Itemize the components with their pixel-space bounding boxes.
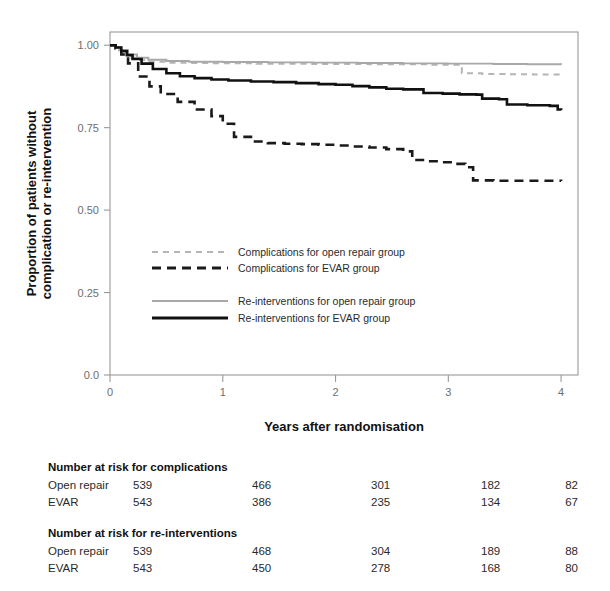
risk-cell: 189 [481,545,500,557]
risk-cell: 88 [565,545,578,557]
risk-cell: 278 [371,562,390,574]
chart-legend: Complications for open repair groupCompl… [152,246,416,324]
risk-cell: 80 [565,562,578,574]
risk-cell: 67 [565,496,578,508]
legend-label-0: Complications for open repair group [238,246,405,258]
risk-cell: 301 [371,479,390,491]
kaplan-meier-figure: 0.00.250.500.751.00 01234 Complications … [0,0,610,591]
x-axis-title: Years after randomisation [264,419,424,434]
risk-cell: 168 [481,562,500,574]
y-tick-label: 0.0 [84,369,99,381]
x-tick-label: 2 [332,386,338,398]
risk-table-header-0: Number at risk for complications [48,461,228,473]
risk-row-label: Open repair [48,545,109,557]
y-tick-label: 1.00 [78,39,99,51]
risk-cell: 82 [565,479,578,491]
legend-label-1: Complications for EVAR group [238,262,380,274]
risk-cell: 468 [252,545,271,557]
y-axis-title-line-0: Proportion of patients without [24,110,39,296]
risk-row-label: EVAR [48,562,78,574]
risk-cell: 304 [371,545,391,557]
x-tick-label: 1 [220,386,226,398]
y-axis-title: Proportion of patients withoutcomplicati… [24,108,54,299]
y-axis-title-line-1: complication or re-intervention [39,108,54,299]
legend-label-3: Re-interventions for EVAR group [238,312,390,324]
x-tick-label: 0 [107,386,113,398]
curve-complications_evar [110,45,561,181]
risk-row-label: EVAR [48,496,78,508]
risk-cell: 539 [133,545,152,557]
x-axis: 01234 [107,375,564,398]
curve-reinterventions_open_repair [110,45,561,64]
risk-cell: 386 [252,496,271,508]
risk-row-label: Open repair [48,479,109,491]
risk-tables: Number at risk for complicationsOpen rep… [48,461,578,574]
risk-cell: 539 [133,479,152,491]
risk-cell: 466 [252,479,271,491]
y-tick-label: 0.25 [78,287,99,299]
risk-cell: 235 [371,496,390,508]
x-tick-label: 3 [445,386,451,398]
y-axis: 0.00.250.500.751.00 [78,39,110,381]
survival-curve-chart: 0.00.250.500.751.00 01234 Complications … [0,0,610,591]
risk-table-header-1: Number at risk for re-interventions [48,527,237,539]
risk-cell: 134 [481,496,501,508]
risk-cell: 543 [133,496,152,508]
x-tick-label: 4 [558,386,564,398]
risk-cell: 450 [252,562,271,574]
curve-series-group [110,45,561,181]
risk-cell: 543 [133,562,152,574]
legend-label-2: Re-interventions for open repair group [238,295,416,307]
y-tick-label: 0.75 [78,122,99,134]
risk-cell: 182 [481,479,500,491]
y-tick-label: 0.50 [78,204,99,216]
curve-complications_open_repair [110,45,561,75]
